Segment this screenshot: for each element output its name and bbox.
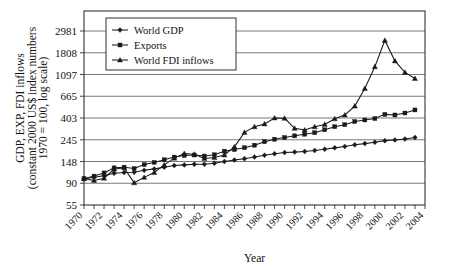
series-marker-1 bbox=[373, 117, 377, 121]
series-marker-1 bbox=[353, 119, 357, 123]
y-axis-tick-label: 1808 bbox=[55, 47, 78, 59]
series-marker-1 bbox=[383, 112, 387, 116]
legend-marker-1 bbox=[118, 43, 122, 47]
chart-figure: 2981180810976654032451489055197019721974… bbox=[0, 0, 457, 270]
x-axis-tick-label: 1998 bbox=[343, 210, 365, 232]
series-marker-0 bbox=[363, 141, 368, 146]
series-marker-0 bbox=[342, 144, 347, 149]
legend-label-1: Exports bbox=[134, 40, 167, 51]
series-marker-0 bbox=[192, 162, 197, 167]
series-marker-1 bbox=[253, 143, 257, 147]
x-axis-tick-label: 1994 bbox=[303, 210, 325, 232]
x-axis-tick-label: 1978 bbox=[143, 210, 165, 232]
x-axis-tick-label: 1974 bbox=[103, 210, 125, 232]
series-marker-0 bbox=[272, 151, 277, 156]
series-marker-0 bbox=[222, 159, 227, 164]
series-marker-0 bbox=[312, 148, 317, 153]
series-marker-1 bbox=[413, 108, 417, 112]
series-marker-1 bbox=[293, 134, 297, 138]
x-axis-title: Year bbox=[244, 252, 265, 264]
series-marker-2 bbox=[362, 86, 367, 91]
series-marker-1 bbox=[283, 135, 287, 139]
series-marker-2 bbox=[322, 122, 327, 127]
series-marker-1 bbox=[393, 113, 397, 117]
x-axis-tick-label: 1984 bbox=[203, 210, 225, 232]
y-axis-tick-label: 148 bbox=[61, 156, 78, 168]
y-axis-tick-label: 90 bbox=[66, 177, 78, 189]
series-marker-1 bbox=[343, 123, 347, 127]
series-marker-1 bbox=[132, 167, 136, 171]
series-marker-2 bbox=[262, 121, 267, 126]
legend-label-0: World GDP bbox=[134, 25, 184, 36]
series-marker-0 bbox=[302, 149, 307, 154]
series-marker-1 bbox=[403, 111, 407, 115]
y-axis-tick-label: 1097 bbox=[55, 69, 78, 81]
series-marker-0 bbox=[242, 156, 247, 161]
series-marker-1 bbox=[263, 140, 267, 144]
series-marker-1 bbox=[152, 160, 156, 164]
x-axis-tick-label: 1976 bbox=[123, 210, 145, 232]
series-marker-0 bbox=[393, 137, 398, 142]
series-marker-0 bbox=[262, 153, 267, 158]
series-marker-1 bbox=[102, 171, 106, 175]
series-marker-0 bbox=[403, 137, 408, 142]
x-axis-tick-label: 1990 bbox=[263, 210, 285, 232]
series-marker-1 bbox=[142, 163, 146, 167]
y-axis-tick-label: 403 bbox=[61, 112, 78, 124]
legend-label-2: World FDI inflows bbox=[134, 55, 214, 66]
x-axis-tick-label: 1972 bbox=[83, 210, 105, 232]
line-chart-svg: 2981180810976654032451489055197019721974… bbox=[0, 0, 457, 270]
x-axis-tick-label: 1996 bbox=[323, 210, 345, 232]
series-marker-2 bbox=[382, 38, 387, 43]
series-marker-1 bbox=[273, 137, 277, 141]
series-marker-0 bbox=[182, 162, 187, 167]
x-axis-tick-label: 1982 bbox=[183, 210, 205, 232]
series-marker-0 bbox=[282, 150, 287, 155]
y-axis-tick-label: 665 bbox=[61, 90, 78, 102]
series-marker-0 bbox=[142, 168, 147, 173]
x-axis-tick-label: 2004 bbox=[403, 210, 425, 232]
series-marker-0 bbox=[383, 138, 388, 143]
series-marker-0 bbox=[322, 147, 327, 152]
series-marker-0 bbox=[332, 145, 337, 150]
series-marker-0 bbox=[373, 140, 378, 145]
x-axis-tick-label: 2000 bbox=[363, 210, 385, 232]
series-marker-1 bbox=[323, 128, 327, 132]
y-axis-tick-label: 245 bbox=[61, 134, 78, 146]
series-marker-0 bbox=[172, 163, 177, 168]
series-marker-2 bbox=[412, 76, 417, 81]
series-marker-1 bbox=[363, 118, 367, 122]
series-marker-0 bbox=[202, 162, 207, 167]
series-marker-0 bbox=[292, 150, 297, 155]
series-marker-0 bbox=[352, 142, 357, 147]
series-marker-1 bbox=[242, 146, 246, 150]
series-marker-2 bbox=[352, 104, 357, 109]
series-marker-1 bbox=[333, 125, 337, 129]
x-axis-tick-label: 2002 bbox=[383, 210, 405, 232]
x-axis-tick-label: 1970 bbox=[62, 210, 84, 232]
series-marker-0 bbox=[252, 155, 257, 160]
x-axis-tick-label: 1980 bbox=[163, 210, 185, 232]
y-axis-title-line3: 1970 = 100, log scale) bbox=[37, 57, 50, 160]
series-marker-1 bbox=[162, 158, 166, 162]
x-axis-tick-label: 1988 bbox=[243, 210, 265, 232]
x-axis-tick-label: 1986 bbox=[223, 210, 245, 232]
y-axis-tick-label: 2981 bbox=[55, 25, 77, 37]
series-marker-2 bbox=[242, 130, 247, 135]
series-marker-2 bbox=[392, 58, 397, 63]
series-marker-0 bbox=[112, 171, 117, 176]
series-marker-2 bbox=[372, 64, 377, 69]
series-marker-2 bbox=[162, 162, 167, 167]
series-marker-0 bbox=[413, 135, 418, 140]
series-marker-1 bbox=[303, 132, 307, 136]
x-axis-tick-label: 1992 bbox=[283, 210, 305, 232]
series-marker-1 bbox=[313, 131, 317, 135]
